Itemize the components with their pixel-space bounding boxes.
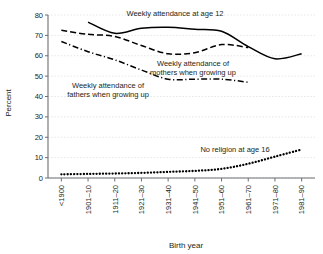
series-line-1: [61, 30, 248, 54]
series-label: Weekly attendance of: [157, 59, 230, 68]
x-tick-label: 1921–30: [137, 185, 146, 214]
x-tick-label: 1941–50: [191, 185, 200, 214]
x-tick-label: 1911–20: [111, 185, 120, 214]
x-tick-label: 1981–90: [297, 185, 306, 214]
x-tick-label: 1971–80: [271, 185, 280, 214]
y-tick-label: 80: [35, 11, 43, 20]
x-tick-label: 1961–70: [244, 185, 253, 214]
x-axis-ticks: <19001901–101911–201921–301931–401941–50…: [57, 178, 306, 214]
chart-figure: 01020304050607080 <19001901–101911–20192…: [0, 0, 323, 254]
y-axis-title: Percent: [4, 88, 13, 116]
x-tick-label: 1951–60: [217, 185, 226, 214]
line-chart: 01020304050607080 <19001901–101911–20192…: [0, 0, 323, 254]
y-tick-label: 50: [35, 72, 43, 81]
x-tick-label: 1901–10: [84, 185, 93, 214]
series-label: No religion at age 16: [200, 145, 269, 154]
y-tick-label: 40: [35, 92, 43, 101]
y-tick-label: 20: [35, 133, 43, 142]
series-label: mothers when growing up: [150, 68, 236, 77]
x-tick-label: <1900: [57, 185, 66, 206]
y-tick-label: 10: [35, 153, 43, 162]
y-tick-label: 0: [39, 174, 43, 183]
x-axis-title: Birth year: [169, 241, 204, 250]
series-label: Weekly attendance at age 12: [126, 9, 223, 18]
x-tick-label: 1931–40: [164, 185, 173, 214]
series-label: Weekly attendance of: [72, 81, 145, 90]
y-tick-label: 30: [35, 112, 43, 121]
y-tick-label: 70: [35, 31, 43, 40]
y-axis-ticks: 01020304050607080: [35, 11, 48, 183]
series-label: fathers when growing up: [67, 90, 149, 99]
y-tick-label: 60: [35, 51, 43, 60]
